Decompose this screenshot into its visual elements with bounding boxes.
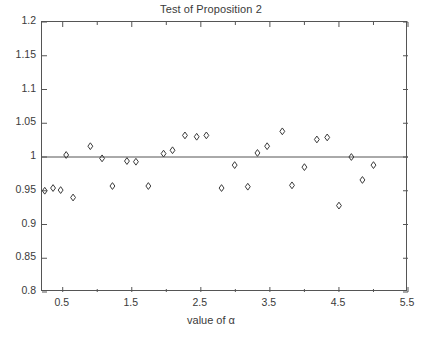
x-tick-label: 0.5 (42, 296, 82, 308)
data-point-marker (124, 158, 129, 165)
y-tick-label: 1.1 (2, 82, 36, 94)
y-tick-label: 1 (2, 149, 36, 161)
data-point-marker (204, 132, 209, 139)
data-point-marker (170, 147, 175, 154)
data-point-marker (182, 132, 187, 139)
data-point-marker (232, 162, 237, 169)
x-tick-label: 1.5 (111, 296, 151, 308)
data-point-marker (360, 177, 365, 184)
y-tick-label: 0.8 (2, 284, 36, 296)
data-point-marker (219, 185, 224, 192)
y-tick-label: 0.9 (2, 217, 36, 229)
y-tick-label: 1.2 (2, 14, 36, 26)
data-point-marker (71, 194, 76, 201)
data-point-marker (336, 202, 341, 209)
data-point-marker (51, 185, 56, 192)
data-point-marker (100, 155, 105, 162)
x-tick-label: 4.5 (318, 296, 358, 308)
plot-area (41, 21, 407, 291)
data-point-marker (265, 143, 270, 150)
x-tick-label: 5.5 (387, 296, 422, 308)
scatter-plot-svg (42, 22, 408, 292)
y-tick-label: 1.15 (2, 48, 36, 60)
data-point-marker (280, 128, 285, 135)
data-point-marker (146, 183, 151, 190)
data-point-marker (88, 143, 93, 150)
data-point-marker (290, 182, 295, 189)
y-tick-label: 1.05 (2, 115, 36, 127)
x-tick-label: 3.5 (249, 296, 289, 308)
x-axis-label: value of α (0, 314, 422, 326)
data-point-marker (302, 164, 307, 171)
chart-figure: Test of Proposition 2 0.80.850.90.9511.0… (0, 0, 422, 338)
y-tick-label: 0.85 (2, 250, 36, 262)
data-point-marker (371, 162, 376, 169)
data-point-marker (194, 133, 199, 140)
x-axis-tick-labels: 0.51.52.53.54.55.5 (41, 296, 407, 312)
data-point-marker (161, 150, 166, 157)
y-axis-tick-labels: 0.80.850.90.9511.051.11.151.2 (0, 21, 36, 291)
x-tick-label: 2.5 (180, 296, 220, 308)
chart-title: Test of Proposition 2 (0, 3, 422, 15)
data-point-marker (58, 187, 63, 194)
data-point-marker (133, 158, 138, 165)
data-point-marker (245, 183, 250, 190)
data-point-marker (314, 136, 319, 143)
data-point-marker (325, 134, 330, 141)
data-point-marker (255, 150, 260, 157)
y-tick-label: 0.95 (2, 183, 36, 195)
data-point-marker (110, 183, 115, 190)
